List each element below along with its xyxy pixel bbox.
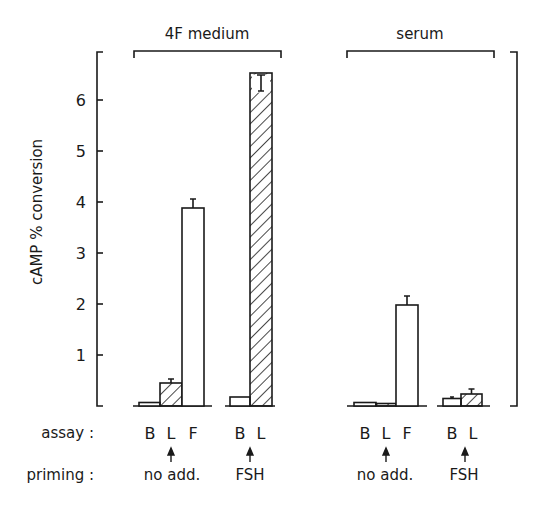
assay-L: L [382, 424, 391, 443]
errorbar-serum-noadd-F [404, 296, 410, 305]
y-axis [97, 52, 103, 406]
assay-F: F [402, 424, 411, 443]
bar-serum-noadd-L [376, 404, 396, 407]
assay-B: B [360, 424, 371, 443]
assay-labels-4f: B L F B L [145, 424, 266, 443]
y-tick-3: 3 [76, 244, 86, 263]
priming-labels: no add. FSH no add. FSH [144, 466, 479, 484]
group-title-serum: serum [396, 25, 443, 43]
y-axis-label: cAMP % conversion [28, 139, 46, 285]
priming-no-add-4f: no add. [144, 466, 200, 484]
priming-fsh-4f: FSH [235, 466, 264, 484]
y-tick-4: 4 [76, 193, 86, 212]
bars-serum-fsh [443, 389, 482, 406]
assay-L: L [469, 424, 478, 443]
arrow-up-icon [462, 448, 468, 462]
arrow-up-icon [247, 448, 253, 462]
arrow-up-icon [168, 448, 174, 462]
assay-labels-serum: B L F B L [360, 424, 478, 443]
priming-fsh-serum: FSH [449, 466, 478, 484]
y-tick-6: 6 [76, 91, 86, 110]
y-tick-1: 1 [76, 346, 86, 365]
right-bracket [510, 52, 517, 406]
group-title-4f-medium: 4F medium [165, 25, 250, 43]
priming-no-add-serum: no add. [357, 466, 413, 484]
assay-L: L [167, 424, 176, 443]
bars-4f-fsh [230, 73, 272, 406]
assay-L: L [257, 424, 266, 443]
arrow-up-icon [383, 448, 389, 462]
y-tick-labels: 1 2 3 4 5 6 [76, 91, 86, 365]
priming-arrows [168, 448, 468, 462]
bar-4f-fsh-L [250, 73, 272, 406]
priming-row-label: priming : [27, 466, 95, 484]
assay-F: F [188, 424, 197, 443]
group-bracket-serum [347, 51, 494, 58]
assay-B: B [447, 424, 458, 443]
assay-B: B [235, 424, 246, 443]
assay-row-label: assay : [41, 424, 94, 442]
bar-serum-noadd-F [396, 305, 418, 406]
group-bracket-4f-medium [134, 51, 281, 58]
y-tick-5: 5 [76, 142, 86, 161]
bars-4f-noadd [139, 199, 204, 406]
assay-B: B [145, 424, 156, 443]
bar-4f-noadd-L [160, 383, 182, 406]
bar-4f-noadd-B [139, 403, 160, 407]
bar-serum-noadd-B [354, 403, 376, 407]
errorbar-4f-noadd-F [190, 199, 196, 208]
bar-4f-noadd-F [182, 208, 204, 406]
chart-canvas: 1 2 3 4 5 6 cAMP % conversion 4F medium … [0, 0, 545, 511]
bar-4f-fsh-B [230, 397, 250, 406]
bar-serum-fsh-B [443, 399, 461, 407]
y-tick-2: 2 [76, 295, 86, 314]
bar-serum-fsh-L [461, 394, 482, 406]
bars-serum-noadd [354, 296, 418, 406]
